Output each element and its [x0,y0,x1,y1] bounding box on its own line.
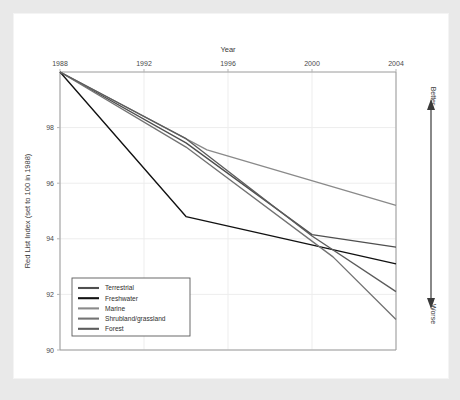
legend-label: Freshwater [105,295,139,302]
y-tick-label: 96 [46,180,54,187]
worse-label: Worse [430,304,437,324]
x-axis-title: Year [220,45,236,54]
legend-label: Terrestrial [105,284,134,291]
legend-label: Marine [105,305,125,312]
chart-panel: 198819921996200020049896949290YearRed Li… [14,14,448,378]
screenshot-frame: 198819921996200020049896949290YearRed Li… [0,0,460,400]
x-tick-label: 1992 [136,60,152,67]
legend-label: Forest [105,325,124,332]
x-tick-label: 2004 [388,60,404,67]
y-axis-title: Red List Index (set to 100 in 1988) [23,153,32,268]
x-tick-label: 1996 [220,60,236,67]
y-tick-label: 92 [46,291,54,298]
legend-label: Shrubland/grassland [105,315,166,323]
plot-container: 198819921996200020049896949290YearRed Li… [14,14,448,378]
y-tick-label: 94 [46,235,54,242]
y-tick-label: 90 [46,347,54,354]
y-tick-label: 98 [46,124,54,131]
x-tick-label: 2000 [304,60,320,67]
x-tick-label: 1988 [52,60,68,67]
red-list-index-line-chart: 198819921996200020049896949290YearRed Li… [14,14,448,378]
